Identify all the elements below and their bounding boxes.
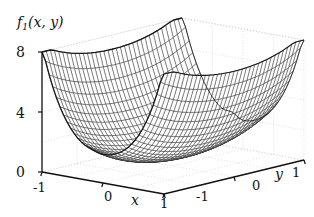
ztick-0: 0: [16, 164, 25, 180]
zaxis-label: f1(x, y): [17, 14, 64, 30]
xaxis-label: x: [131, 192, 139, 208]
zaxis-label-args: (x, y): [28, 14, 64, 30]
yaxis-label: y: [275, 166, 283, 182]
zaxis-label-subscript: 1: [22, 22, 28, 32]
xtick-1: 1: [160, 196, 168, 211]
ytick-1: 1: [292, 165, 300, 180]
xtick-0: 0: [104, 189, 112, 204]
surface-plot-canvas: [0, 0, 314, 217]
ztick-8: 8: [16, 44, 25, 60]
ztick-4: 4: [16, 105, 25, 121]
xtick-minus1: -1: [33, 180, 46, 195]
figure-3d-surface-plot: f1(x, y) 8 4 0 -1 0 1 x -1 0 1 y: [0, 0, 314, 217]
ytick-minus1: -1: [196, 189, 209, 204]
ytick-0: 0: [252, 178, 260, 193]
